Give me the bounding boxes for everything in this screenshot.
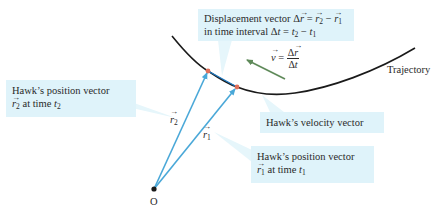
trajectory-label: Trajectory bbox=[387, 64, 430, 75]
position-vector-r2 bbox=[154, 73, 207, 189]
r1-vector-label: r1 bbox=[203, 129, 211, 140]
displacement-line-2: in time interval Δt = t2 − t1 bbox=[204, 25, 348, 38]
displacement-line-1: Displacement vector Δr = r2 − r1 bbox=[204, 12, 348, 25]
r2-vector-label: r2 bbox=[170, 114, 178, 125]
position-r1-callout: Hawk’s position vector r1 at time t1 bbox=[251, 146, 374, 183]
origin-point bbox=[151, 186, 156, 191]
velocity-callout: Hawk’s velocity vector bbox=[260, 112, 384, 133]
origin-label: O bbox=[150, 196, 158, 207]
displacement-callout: Displacement vector Δr = r2 − r1 in time… bbox=[198, 9, 354, 41]
velocity-callout-wedge bbox=[262, 95, 284, 112]
velocity-formula: v = Δr Δt bbox=[271, 47, 299, 70]
displacement-callout-wedge bbox=[218, 40, 232, 76]
position-vector-r1 bbox=[154, 89, 235, 189]
point-marker-t2 bbox=[206, 69, 211, 74]
r1-callout-wedge bbox=[214, 132, 252, 162]
position-r2-callout: Hawk’s position vector r2 at time t2 bbox=[6, 80, 136, 117]
velocity-fraction: Δr Δt bbox=[287, 47, 299, 70]
point-marker-t1 bbox=[235, 85, 240, 90]
